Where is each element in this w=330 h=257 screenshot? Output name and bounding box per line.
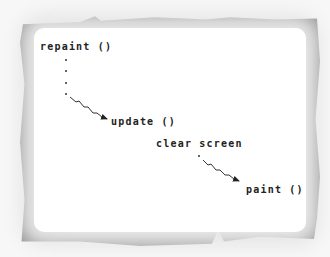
- arrows-layer: [0, 0, 330, 257]
- arrow-clear-to-paint: [203, 160, 239, 181]
- arrow-repaint-to-update: [70, 97, 107, 119]
